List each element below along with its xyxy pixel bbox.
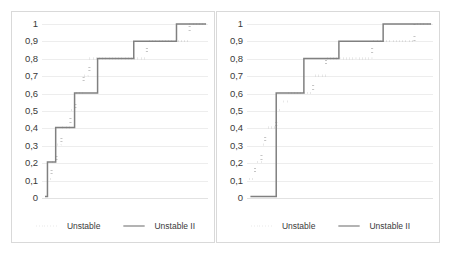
legend-item[interactable]: Unstable xyxy=(246,222,316,231)
legend-label: Unstable II xyxy=(154,222,195,231)
legend-swatch-dotted xyxy=(246,224,278,228)
legend-swatch-solid xyxy=(333,224,365,228)
series-line-unstable xyxy=(47,24,206,179)
plot-area-left: 10,90,80,70,60,50,40,30,20,10 xyxy=(12,12,214,242)
series-canvas-right xyxy=(217,12,439,242)
legend-item[interactable]: Unstable xyxy=(31,222,101,231)
series-canvas-left xyxy=(12,12,214,242)
legend-left: UnstableUnstable II xyxy=(12,222,214,231)
legend-label: Unstable xyxy=(282,222,316,231)
plot-area-right: 10,90,80,70,60,50,40,30,20,10 xyxy=(217,12,439,242)
legend-swatch-solid xyxy=(118,224,150,228)
legend-item[interactable]: Unstable II xyxy=(333,222,410,231)
legend-label: Unstable xyxy=(67,222,101,231)
legend-swatch-dotted xyxy=(31,224,63,228)
figure-root: 10,90,80,70,60,50,40,30,20,10 UnstableUn… xyxy=(0,0,451,262)
chart-panel-right: 10,90,80,70,60,50,40,30,20,10 UnstableUn… xyxy=(216,11,440,243)
series-line-unstable-ii xyxy=(250,24,431,197)
legend-right: UnstableUnstable II xyxy=(217,222,439,231)
chart-panel-left: 10,90,80,70,60,50,40,30,20,10 UnstableUn… xyxy=(11,11,215,243)
legend-label: Unstable II xyxy=(369,222,410,231)
series-line-unstable-ii xyxy=(45,24,206,197)
legend-item[interactable]: Unstable II xyxy=(118,222,195,231)
